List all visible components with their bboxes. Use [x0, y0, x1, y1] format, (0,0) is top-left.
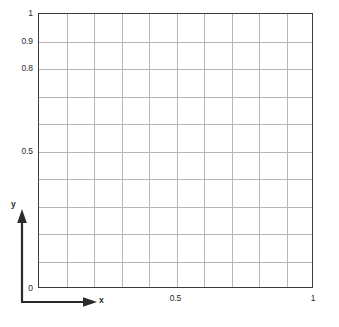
- grid-line-horizontal: [39, 124, 312, 125]
- grid-line-horizontal: [39, 42, 312, 43]
- grid-line-vertical: [122, 14, 123, 287]
- axis-arrows-svg: [0, 200, 115, 327]
- grid-line-vertical: [259, 14, 260, 287]
- grid-line-vertical: [232, 14, 233, 287]
- grid-line-horizontal: [39, 97, 312, 98]
- grid-line-vertical: [204, 14, 205, 287]
- x-tick-label: 0.5: [170, 293, 182, 303]
- grid-line-horizontal: [39, 179, 312, 180]
- y-tick-label: 1: [28, 8, 33, 18]
- axis-direction-indicator: y x: [0, 200, 115, 327]
- grid-line-horizontal: [39, 69, 312, 70]
- x-axis-label: x: [99, 295, 104, 305]
- y-tick-label: 0.5: [21, 146, 33, 156]
- grid-line-vertical: [177, 14, 178, 287]
- chart-figure: 10.90.80.500.51 y x: [0, 0, 339, 327]
- arrow-up-icon: [17, 209, 27, 223]
- grid-line-vertical: [287, 14, 288, 287]
- x-tick-label: 1: [311, 293, 316, 303]
- grid-line-horizontal: [39, 152, 312, 153]
- grid-line-vertical: [149, 14, 150, 287]
- y-axis-label: y: [11, 199, 16, 209]
- arrow-right-icon: [83, 297, 97, 307]
- y-tick-label: 0.9: [21, 36, 33, 46]
- y-tick-label: 0.8: [21, 63, 33, 73]
